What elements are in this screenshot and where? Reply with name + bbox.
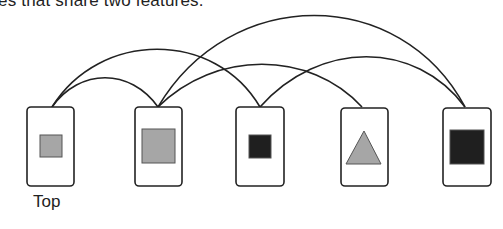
card-3 — [236, 107, 284, 186]
top-label: Top — [33, 192, 60, 212]
square-shape — [249, 135, 271, 158]
square-shape — [40, 135, 62, 157]
card-4 — [341, 108, 388, 186]
link-card-2-card-4 — [158, 64, 362, 107]
card-1 — [27, 107, 74, 186]
cards-group — [27, 107, 491, 186]
link-card-1-card-3 — [52, 49, 260, 107]
card-2 — [135, 107, 182, 186]
square-shape — [142, 129, 175, 163]
link-card-1-card-2 — [52, 78, 158, 107]
feature-link-diagram — [0, 0, 503, 229]
card-5 — [443, 108, 491, 186]
link-card-2-card-5 — [158, 16, 465, 108]
links-group — [52, 16, 465, 108]
square-shape — [450, 130, 484, 164]
